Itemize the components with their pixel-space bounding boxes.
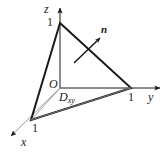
x-axis-tick-label: 1 <box>32 122 38 134</box>
projection-region-dxy <box>31 88 131 120</box>
plane-triangle <box>31 23 131 120</box>
y-axis-label: y <box>148 91 153 103</box>
x-axis-label: x <box>21 136 26 148</box>
coordinate-diagram-figure: z 1 y 1 x 1 O Dxy n <box>0 0 167 152</box>
normal-vector-arrow <box>74 38 100 63</box>
region-subscript: xy <box>68 96 75 105</box>
y-axis-tick-label: 1 <box>128 91 134 103</box>
origin-label: O <box>49 78 58 90</box>
diagram-canvas <box>0 0 167 152</box>
z-axis-tick-label: 1 <box>47 16 53 28</box>
normal-vector-label: n <box>101 24 107 35</box>
region-letter: D <box>59 90 68 104</box>
z-axis-label: z <box>44 3 49 15</box>
projection-region-label: Dxy <box>59 91 75 103</box>
